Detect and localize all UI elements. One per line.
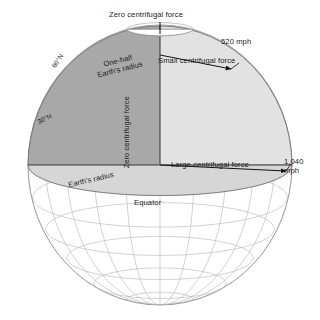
label-axis-zero-centrifugal-force: Zero centrifugal force: [123, 88, 132, 176]
label-small-centrifugal-force: Small centrifugal force: [158, 57, 222, 66]
label-zero-centrifugal-force-top: Zero centrifugal force: [109, 11, 183, 20]
label-large-centrifugal-force: Large centrifugal force: [171, 161, 249, 170]
label-1040-line2: mph: [284, 166, 299, 175]
label-speed-1040mph: 1,040 mph: [284, 158, 304, 175]
label-speed-520mph: 520 mph: [221, 38, 251, 47]
label-equator: Equator: [134, 199, 161, 208]
diagram-canvas: Zero centrifugal force 520 mph Small cen…: [0, 0, 320, 320]
wedge-dark-cutaway: [28, 26, 160, 165]
label-1040-line1: 1,040: [284, 157, 304, 166]
wedge-light-quadrant: [160, 26, 292, 165]
earth-centrifugal-force-diagram: [0, 0, 320, 320]
